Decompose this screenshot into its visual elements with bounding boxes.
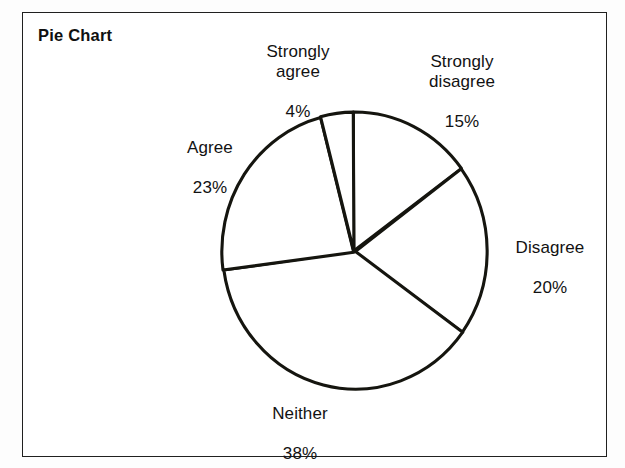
pie-label-strongly-disagree-name: Strongly disagree bbox=[392, 52, 532, 92]
pie-label-disagree-value: 20% bbox=[484, 278, 616, 298]
pie-label-agree-value: 23% bbox=[152, 178, 268, 198]
pie-label-neither: Neither 38% bbox=[232, 384, 368, 468]
pie-label-strongly-disagree-value: 15% bbox=[392, 112, 532, 132]
pie-chart-figure: Pie Chart Strongly agree 4% Strongly dis… bbox=[0, 0, 625, 468]
pie-label-strongly-disagree: Strongly disagree 15% bbox=[392, 32, 532, 152]
pie-label-neither-value: 38% bbox=[232, 444, 368, 464]
pie-label-neither-name: Neither bbox=[232, 404, 368, 424]
pie-label-agree-name: Agree bbox=[152, 138, 268, 158]
pie-label-disagree-name: Disagree bbox=[484, 238, 616, 258]
pie-label-strongly-agree-name: Strongly agree bbox=[236, 42, 360, 82]
pie-label-disagree: Disagree 20% bbox=[484, 218, 616, 318]
page-title: Pie Chart bbox=[38, 26, 112, 45]
pie-label-agree: Agree 23% bbox=[152, 118, 268, 218]
